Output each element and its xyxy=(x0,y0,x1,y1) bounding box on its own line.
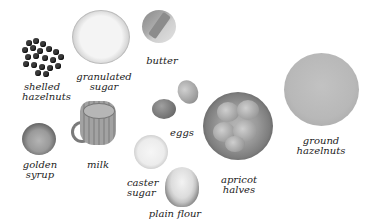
granulated-sugar-image xyxy=(72,10,130,64)
shelled-hazelnuts-label: shelled hazelnuts xyxy=(22,82,62,102)
ground-hazelnuts-image xyxy=(284,53,359,126)
milk-surface xyxy=(83,103,115,119)
butter-label: butter xyxy=(146,56,178,66)
golden-syrup-image xyxy=(22,123,56,155)
granulated-sugar-label: granulated sugar xyxy=(76,72,132,92)
butter-image xyxy=(142,10,176,43)
golden-syrup-label: golden syrup xyxy=(20,160,60,180)
egg-image xyxy=(152,99,176,119)
shelled-hazelnuts-image xyxy=(20,36,68,76)
caster-sugar-label: caster sugar xyxy=(127,178,159,198)
plain-flour-image xyxy=(165,167,199,207)
plain-flour-label: plain flour xyxy=(144,209,206,219)
apricot-halves-label: apricot halves xyxy=(218,175,260,195)
milk-jug-image xyxy=(80,101,116,145)
milk-label: milk xyxy=(84,160,112,170)
apricot-halves-image xyxy=(203,92,273,160)
ground-hazelnuts-label: ground hazelnuts xyxy=(296,136,346,156)
egg-image xyxy=(174,77,202,107)
eggs-label: eggs xyxy=(170,128,194,138)
caster-sugar-image xyxy=(134,135,168,169)
ingredients-photo: shelled hazelnuts granulated sugar butte… xyxy=(0,0,375,223)
butter-block xyxy=(148,12,171,39)
